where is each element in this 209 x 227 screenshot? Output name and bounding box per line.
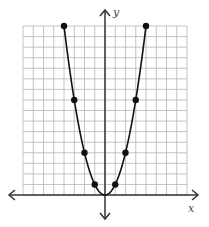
data-point bbox=[133, 97, 139, 103]
data-point bbox=[61, 23, 67, 29]
data-point bbox=[71, 97, 77, 103]
data-point bbox=[112, 181, 118, 187]
data-point bbox=[122, 150, 128, 156]
data-point bbox=[81, 150, 87, 156]
axes bbox=[9, 10, 198, 219]
data-point bbox=[143, 23, 149, 29]
parabola-chart bbox=[0, 0, 209, 227]
x-axis-label: x bbox=[188, 202, 194, 215]
data-point bbox=[92, 181, 98, 187]
y-axis-label: y bbox=[113, 6, 119, 19]
